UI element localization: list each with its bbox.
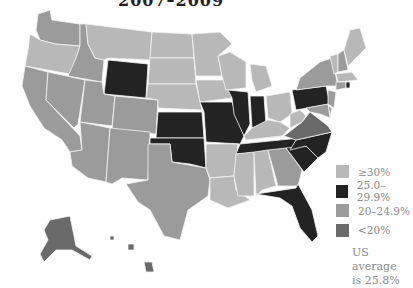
us-average-line1: US average [352,246,413,274]
legend-swatch [336,165,349,178]
state-CO [112,96,158,134]
state-SD [148,58,196,84]
state-FL [256,184,318,242]
state-CT [336,82,346,90]
legend-item: 20–24.9% [336,201,413,221]
state-NJ [328,90,336,108]
state-KY [244,120,290,140]
legend-label: ≥30% [358,166,390,178]
legend-label: 20–24.9% [358,205,410,217]
state-AZ [70,122,110,182]
us-average-note: US average is 25.8% [352,246,413,288]
legend-item: 25.0–29.9% [336,182,413,202]
state-MI [250,64,272,92]
state-MS [234,152,254,196]
legend-label: <20% [358,224,390,236]
state-HI [110,236,154,272]
state-AR [206,144,238,178]
state-RI [346,82,350,88]
legend-swatch [336,185,348,198]
state-ME [344,28,366,66]
state-MT [86,24,152,60]
state-AK [40,216,92,262]
state-MA [336,72,358,82]
legend-label: 25.0–29.9% [357,179,413,203]
state-ND [150,32,194,58]
legend-swatch [336,204,349,217]
legend-item: <20% [336,221,413,241]
us-average-line2: is 25.8% [352,274,413,288]
state-OH [266,92,292,122]
state-KS [156,112,204,138]
state-WY [104,60,148,98]
legend-swatch [336,224,349,237]
state-NM [106,128,150,184]
map-legend: ≥30% 25.0–29.9% 20–24.9% <20% [336,162,413,240]
